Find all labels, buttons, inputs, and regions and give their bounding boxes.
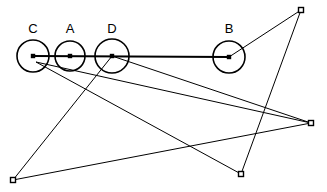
node-label-a: A	[66, 21, 75, 36]
square-vertex-p4	[11, 178, 16, 183]
node-center-dot-b	[227, 55, 231, 59]
node-center-dot-c	[31, 54, 35, 58]
diagram-canvas: CADB	[0, 0, 327, 192]
edge-p2-p4	[13, 123, 311, 180]
node-label-c: C	[28, 21, 37, 36]
edge-c-b	[33, 56, 229, 57]
square-vertex-p1	[299, 8, 304, 13]
edge-d-p2	[112, 56, 311, 123]
node-center-dot-d	[110, 54, 114, 58]
edge-c-p2	[36, 62, 311, 123]
edge-p4-d	[13, 56, 112, 180]
node-labels-group: CADB	[28, 21, 233, 36]
geometric-diagram: CADB	[0, 0, 327, 192]
square-vertex-p3	[239, 172, 244, 177]
edge-p3-c	[36, 62, 241, 174]
node-label-d: D	[107, 21, 116, 36]
edge-b-p1	[229, 10, 301, 57]
node-label-b: B	[225, 21, 234, 36]
edge-p1-p3	[241, 10, 301, 174]
node-center-dot-a	[68, 54, 72, 58]
square-vertices-group	[11, 8, 314, 183]
edges-group	[13, 10, 311, 180]
square-vertex-p2	[309, 121, 314, 126]
